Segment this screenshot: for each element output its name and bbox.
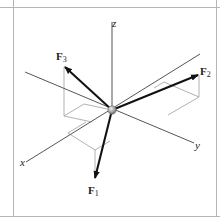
y-axis-label: y [194, 139, 200, 151]
force-diagram: z y x F3 F2 F1 [0, 0, 220, 220]
x-axis-label: x [19, 156, 25, 168]
force-vector-f1 [95, 110, 112, 178]
force-vector-f3 [65, 67, 112, 110]
particle [108, 106, 116, 114]
force-label-f3: F3 [56, 50, 67, 64]
force-label-f2: F2 [200, 65, 211, 79]
force-label-f1: F1 [88, 184, 99, 198]
axes [25, 22, 200, 162]
z-axis-label: z [111, 17, 117, 29]
